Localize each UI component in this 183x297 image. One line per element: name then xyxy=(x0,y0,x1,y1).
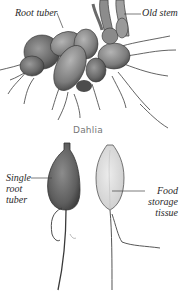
label-single-root-tuber: Single root tuber xyxy=(6,172,31,205)
label-line-1: Food xyxy=(138,185,178,196)
label-food-storage-tissue: Food storage tissue xyxy=(138,185,178,218)
label-line-2: root xyxy=(6,183,31,194)
label-line-1: Single xyxy=(6,172,31,183)
label-old-stem: Old stem xyxy=(142,7,178,18)
label-line-3: tuber xyxy=(6,194,31,205)
single-root-tuber-shape xyxy=(48,143,80,290)
dahlia-figure: Root tuber Old stem Dahlia Single root t… xyxy=(0,0,183,297)
label-line-3: tissue xyxy=(138,207,178,218)
label-root-tuber: Root tuber xyxy=(15,7,58,18)
tuber-cluster xyxy=(0,0,176,128)
figure-caption-dahlia: Dahlia xyxy=(73,125,103,135)
illustration xyxy=(0,0,183,297)
label-line-2: storage xyxy=(138,196,178,207)
